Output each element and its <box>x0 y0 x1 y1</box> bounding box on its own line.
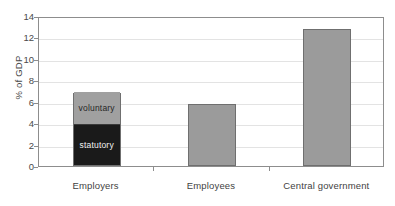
bar-segment-statutory[interactable]: statutory <box>74 125 120 165</box>
y-tick-label: 6 <box>4 98 34 108</box>
bar-employers[interactable]: voluntary statutory <box>73 93 121 166</box>
x-axis-label-employees: Employees <box>153 180 268 191</box>
y-tick: 14 <box>0 12 34 22</box>
y-tick: 12 <box>0 33 34 43</box>
y-tick-mark <box>34 167 38 168</box>
y-tick: 8 <box>0 76 34 86</box>
y-tick: 0 <box>0 162 34 172</box>
x-axis-label-central-government: Central government <box>269 180 384 191</box>
x-tick-mark <box>153 167 154 171</box>
bar-employees[interactable] <box>188 104 236 166</box>
y-tick: 2 <box>0 141 34 151</box>
y-tick-label: 0 <box>4 162 34 172</box>
bar-segment-voluntary[interactable]: voluntary <box>74 92 120 125</box>
bar-central-government[interactable] <box>303 29 351 166</box>
bar-chart: % of GDP 14121086420 voluntary statutory… <box>0 0 395 206</box>
y-tick: 4 <box>0 119 34 129</box>
y-tick-label: 8 <box>4 76 34 86</box>
y-tick: 6 <box>0 98 34 108</box>
y-tick-label: 14 <box>4 12 34 22</box>
bar-segment-voluntary-label: voluntary <box>74 103 120 113</box>
x-axis-label-employers: Employers <box>38 180 153 191</box>
y-tick-label: 2 <box>4 141 34 151</box>
x-tick-mark <box>269 167 270 171</box>
bar-segment-statutory-label: statutory <box>74 140 120 150</box>
y-tick-label: 10 <box>4 55 34 65</box>
y-tick: 10 <box>0 55 34 65</box>
y-tick-label: 4 <box>4 119 34 129</box>
y-tick-label: 12 <box>4 33 34 43</box>
plot-area: voluntary statutory <box>38 17 384 167</box>
